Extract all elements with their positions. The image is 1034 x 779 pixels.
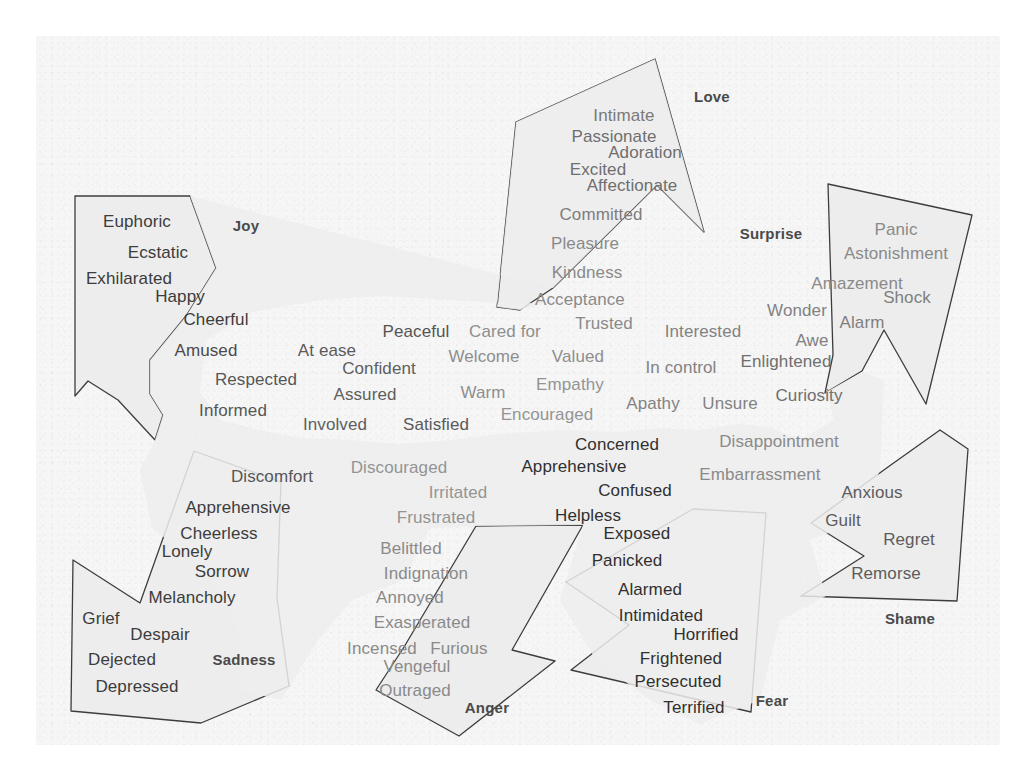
emotion-word: Despair — [130, 626, 189, 643]
emotion-word: Assured — [333, 386, 396, 403]
emotion-word: Discomfort — [231, 468, 313, 485]
emotion-word: Confident — [342, 360, 416, 377]
emotion-word: Cheerless — [180, 525, 257, 542]
category-label-shame: Shame — [885, 611, 935, 626]
emotion-word: Anxious — [841, 484, 902, 501]
category-label-fear: Fear — [756, 693, 789, 708]
emotion-word: Astonishment — [844, 245, 948, 262]
emotion-word: Grief — [82, 610, 119, 627]
category-label-surprise: Surprise — [740, 226, 802, 241]
emotion-word: Outraged — [379, 682, 451, 699]
emotion-word: Furious — [430, 640, 487, 657]
emotion-word: Cared for — [469, 323, 541, 340]
emotion-word: Wonder — [767, 302, 827, 319]
emotion-word: Involved — [303, 416, 367, 433]
emotion-word: Ecstatic — [128, 244, 188, 261]
emotion-word: Frightened — [640, 650, 722, 667]
emotion-word: Happy — [155, 288, 205, 305]
emotion-word: At ease — [298, 342, 356, 359]
emotion-word: Annoyed — [376, 589, 444, 606]
emotion-map-page: EuphoricEcstaticExhilaratedHappyCheerful… — [0, 0, 1034, 779]
emotion-word: Lonely — [162, 543, 213, 560]
emotion-word: Exhilarated — [86, 270, 172, 287]
emotion-word: Persecuted — [635, 673, 722, 690]
emotion-word: Exposed — [604, 525, 671, 542]
emotion-word: Euphoric — [103, 213, 171, 230]
emotion-word: Empathy — [536, 376, 604, 393]
emotion-word: Kindness — [552, 264, 623, 281]
emotion-word: Shock — [883, 289, 931, 306]
emotion-word: Curiosity — [775, 387, 842, 404]
emotion-word: Concerned — [575, 436, 659, 453]
emotion-word: Cheerful — [183, 311, 248, 328]
emotion-word: Terrified — [663, 699, 724, 716]
emotion-word: Pleasure — [551, 235, 619, 252]
emotion-word: Enlightened — [741, 353, 832, 370]
emotion-word: Unsure — [702, 395, 757, 412]
emotion-word: Awe — [795, 332, 828, 349]
category-label-sadness: Sadness — [212, 652, 275, 667]
emotion-word: Helpless — [555, 507, 621, 524]
emotion-word: Satisfied — [403, 416, 469, 433]
emotion-word: Exasperated — [374, 614, 471, 631]
emotion-word: Panic — [874, 221, 917, 238]
emotion-word: Acceptance — [535, 291, 625, 308]
emotion-word: Regret — [883, 531, 935, 548]
emotion-word: Amused — [175, 342, 238, 359]
emotion-word: Warm — [460, 384, 505, 401]
emotion-word: Welcome — [448, 348, 519, 365]
emotion-word: In control — [646, 359, 717, 376]
emotion-word: Respected — [215, 371, 297, 388]
emotion-word: Vengeful — [384, 658, 451, 675]
emotion-word: Confused — [598, 482, 672, 499]
emotion-word: Affectionate — [587, 177, 678, 194]
emotion-words-layer: EuphoricEcstaticExhilaratedHappyCheerful… — [0, 0, 1034, 779]
category-label-joy: Joy — [233, 218, 259, 233]
emotion-word: Intimidated — [619, 607, 703, 624]
emotion-word: Belittled — [380, 540, 441, 557]
emotion-word: Apprehensive — [521, 458, 626, 475]
emotion-word: Trusted — [575, 315, 633, 332]
emotion-word: Interested — [665, 323, 742, 340]
emotion-word: Alarmed — [618, 581, 682, 598]
emotion-word: Irritated — [429, 484, 488, 501]
emotion-word: Intimate — [593, 107, 654, 124]
emotion-word: Melancholy — [149, 589, 236, 606]
emotion-word: Peaceful — [383, 323, 450, 340]
emotion-word: Dejected — [88, 651, 156, 668]
emotion-word: Committed — [559, 206, 642, 223]
emotion-word: Guilt — [825, 512, 860, 529]
emotion-word: Remorse — [851, 565, 921, 582]
emotion-word: Panicked — [592, 552, 663, 569]
emotion-word: Incensed — [347, 640, 417, 657]
emotion-word: Adoration — [608, 144, 682, 161]
emotion-word: Sorrow — [195, 563, 249, 580]
emotion-word: Apathy — [626, 395, 680, 412]
emotion-word: Horrified — [673, 626, 738, 643]
emotion-word: Disappointment — [719, 433, 839, 450]
emotion-word: Apprehensive — [185, 499, 290, 516]
emotion-word: Embarrassment — [699, 466, 820, 483]
emotion-word: Encouraged — [501, 406, 594, 423]
emotion-word: Frustrated — [397, 509, 475, 526]
category-label-love: Love — [694, 89, 730, 104]
emotion-word: Valued — [552, 348, 604, 365]
emotion-word: Informed — [199, 402, 267, 419]
emotion-word: Discouraged — [351, 459, 448, 476]
emotion-word: Indignation — [384, 565, 468, 582]
category-label-anger: Anger — [465, 700, 509, 715]
emotion-word: Alarm — [840, 314, 885, 331]
emotion-word: Depressed — [95, 678, 178, 695]
